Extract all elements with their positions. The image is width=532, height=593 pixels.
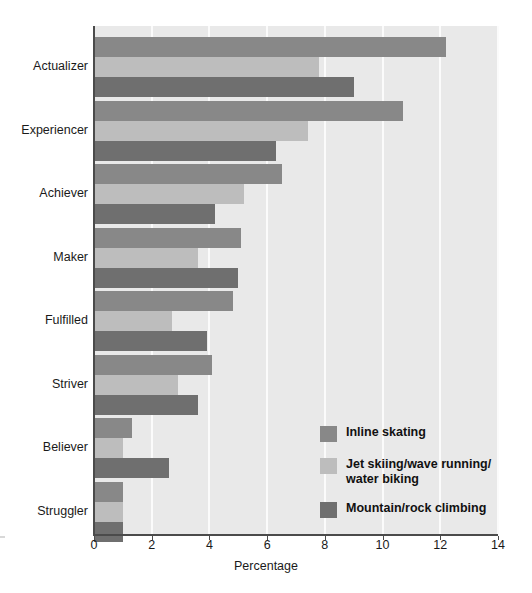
bar	[94, 311, 172, 331]
x-tick-label-4: 4	[189, 538, 229, 552]
x-tick-label-8: 8	[305, 538, 345, 552]
y-axis-label-achiever: Achiever	[39, 186, 88, 200]
y-axis-label-striver: Striver	[52, 377, 88, 391]
legend-item: Inline skating	[320, 425, 510, 443]
bar-group	[94, 101, 498, 161]
bar-group	[94, 228, 498, 288]
legend-swatch-icon	[320, 458, 337, 474]
bar	[94, 57, 319, 77]
bar	[94, 268, 238, 288]
legend-swatch-icon	[320, 502, 337, 518]
x-tick-label-12: 12	[420, 538, 460, 552]
bar-group	[94, 355, 498, 415]
bar	[94, 164, 282, 184]
y-axis-line	[93, 26, 95, 536]
legend-label: Inline skating	[346, 425, 510, 440]
bar-group	[94, 164, 498, 224]
bar	[94, 395, 198, 415]
bar-group	[94, 37, 498, 97]
chart-figure: ActualizerExperiencerAchieverMakerFulfil…	[0, 0, 532, 593]
legend-label: Mountain/rock climbing	[346, 501, 510, 516]
bar	[94, 228, 241, 248]
bar	[94, 331, 207, 351]
y-axis-label-actualizer: Actualizer	[33, 59, 88, 73]
bar-group	[94, 291, 498, 351]
bar	[94, 121, 308, 141]
page-edge-mark	[0, 536, 5, 538]
x-tick-label-0: 0	[74, 538, 114, 552]
bar	[94, 355, 212, 375]
x-tick-label-14: 14	[478, 538, 518, 552]
x-tick-label-2: 2	[132, 538, 172, 552]
bar	[94, 204, 215, 224]
bar	[94, 438, 123, 458]
y-axis-label-struggler: Struggler	[37, 504, 88, 518]
x-axis-line	[93, 534, 498, 536]
legend-item: Mountain/rock climbing	[320, 501, 510, 519]
legend-item: Jet skiing/wave running/ water biking	[320, 457, 510, 487]
bar	[94, 37, 446, 57]
legend-label: Jet skiing/wave running/ water biking	[346, 457, 510, 487]
x-tick-label-6: 6	[247, 538, 287, 552]
y-axis-label-experiencer: Experiencer	[21, 123, 88, 137]
y-axis-label-believer: Believer	[43, 440, 88, 454]
bar	[94, 184, 244, 204]
bar	[94, 458, 169, 478]
bar	[94, 375, 178, 395]
bar	[94, 77, 354, 97]
legend-swatch-icon	[320, 426, 337, 442]
y-axis-label-fulfilled: Fulfilled	[45, 313, 88, 327]
bar	[94, 418, 132, 438]
bar	[94, 101, 403, 121]
bar	[94, 482, 123, 502]
bar	[94, 141, 276, 161]
bar	[94, 502, 123, 522]
y-axis-label-maker: Maker	[53, 250, 88, 264]
bar	[94, 291, 233, 311]
legend: Inline skatingJet skiing/wave running/ w…	[320, 425, 510, 533]
x-tick-label-10: 10	[363, 538, 403, 552]
bar	[94, 248, 198, 268]
x-axis-title: Percentage	[0, 559, 532, 573]
